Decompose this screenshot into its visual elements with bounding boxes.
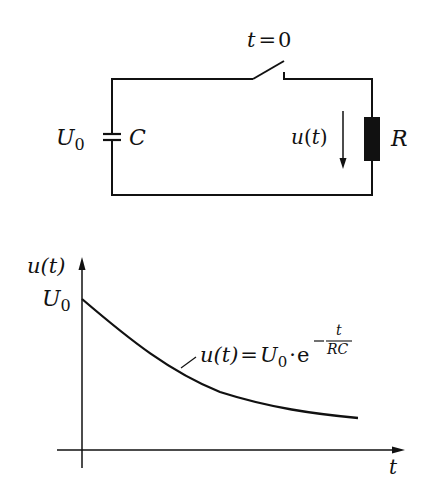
x-axis-arrow [392, 447, 405, 454]
svg-text:u(t)=U0·e: u(t)=U0·e [200, 343, 309, 371]
switch-time-label: t=0 [247, 28, 291, 52]
x-axis-label: t [389, 455, 398, 479]
exponent-denominator: RC [326, 341, 349, 357]
y-axis-label: u(t) [27, 254, 65, 278]
wire-left-bottom [112, 140, 372, 195]
y-axis-arrow [79, 257, 86, 270]
capacitor-symbol [103, 134, 121, 140]
voltage-arrow [340, 111, 347, 169]
voltage-label: u(t) [291, 125, 328, 149]
switch-blade [253, 61, 284, 79]
decay-formula: u(t)=U0·e t RC [200, 322, 352, 371]
source-voltage-label: U0 [56, 125, 85, 154]
rc-discharge-figure: t=0 U0 C u(t) R u(t) U0 t u(t)=U0·e t RC [0, 0, 434, 502]
capacitor-label: C [129, 125, 146, 150]
resistor-label: R [390, 126, 408, 151]
wire-top-right [284, 72, 372, 117]
exponent-numerator: t [336, 322, 342, 338]
circuit [112, 61, 372, 195]
formula-leader-line [181, 357, 196, 368]
start-value-label: U0 [42, 286, 71, 315]
resistor-symbol [364, 117, 380, 161]
